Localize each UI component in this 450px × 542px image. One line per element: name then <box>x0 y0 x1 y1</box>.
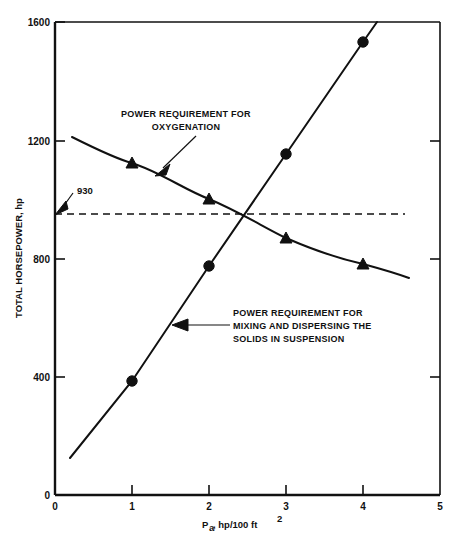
plot-frame <box>55 22 440 495</box>
data-point-marker <box>204 261 214 271</box>
y-axis-ticks <box>55 22 440 495</box>
data-point-marker <box>127 376 137 386</box>
y-tick-label-1200: 1200 <box>28 136 51 147</box>
mixing-annotation-line-2: MIXING AND DISPERSING THE <box>233 321 371 331</box>
mixing-annotation-line-1: POWER REQUIREMENT FOR <box>233 308 363 318</box>
y-tick-label-0: 0 <box>44 490 50 501</box>
reference-value-label: 930 <box>77 185 93 196</box>
x-tick-label-5: 5 <box>437 501 443 512</box>
series-oxygenation-curve <box>72 137 409 278</box>
mixing-annotation-line-3: SOLIDS IN SUSPENSION <box>233 334 345 344</box>
chart-canvas: 0 400 800 1200 1600 0 1 2 3 4 5 P a , hp… <box>0 0 450 542</box>
x-tick-label-2: 2 <box>206 501 212 512</box>
data-point-marker <box>281 149 291 159</box>
oxygenation-annotation-line-2: OXYGENATION <box>152 122 221 132</box>
x-axis-title-base: P <box>202 519 209 530</box>
x-tick-label-0: 0 <box>52 501 58 512</box>
mixing-annotation-leader <box>172 319 230 331</box>
reference-label-930-callout <box>55 193 73 215</box>
y-tick-label-1600: 1600 <box>28 17 51 28</box>
data-point-marker <box>280 232 292 243</box>
oxygenation-arrowhead-icon <box>155 164 170 176</box>
x-axis-title-rest: , hp/100 ft <box>213 519 258 530</box>
x-axis-title-superscript: 2 <box>277 513 282 524</box>
series-mixing-curve <box>70 22 377 458</box>
y-tick-label-800: 800 <box>33 254 50 265</box>
data-point-marker <box>203 193 215 204</box>
reference-arrowhead-icon <box>55 201 68 215</box>
oxygenation-leader-line <box>163 136 196 168</box>
x-tick-label-3: 3 <box>283 501 289 512</box>
y-tick-label-400: 400 <box>33 372 50 383</box>
y-axis-title: TOTAL HORSEPOWER, hp <box>13 198 24 318</box>
oxygenation-annotation-line-1: POWER REQUIREMENT FOR <box>121 109 251 119</box>
chart-figure: 0 400 800 1200 1600 0 1 2 3 4 5 P a , hp… <box>0 0 450 542</box>
mixing-arrowhead-icon <box>172 319 188 331</box>
data-point-marker <box>358 37 368 47</box>
x-axis-title: P a , hp/100 ft 2 <box>202 513 282 533</box>
x-tick-label-1: 1 <box>129 501 135 512</box>
x-tick-label-4: 4 <box>360 501 366 512</box>
oxygenation-annotation-leader <box>155 136 196 176</box>
x-axis-ticks <box>132 485 363 495</box>
